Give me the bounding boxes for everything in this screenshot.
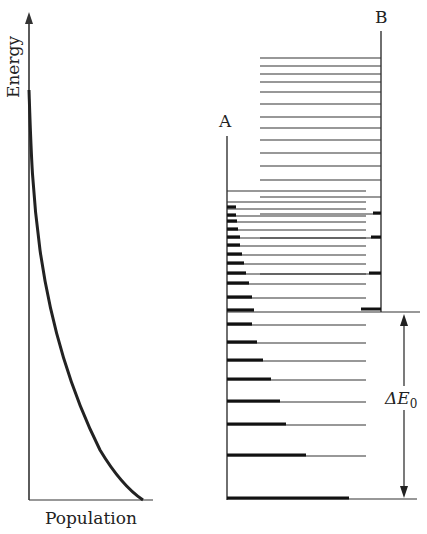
arrow-down-icon xyxy=(400,486,408,498)
a-energy-levels xyxy=(227,191,420,499)
label-b: B xyxy=(375,7,388,27)
a-population-bars xyxy=(227,207,349,498)
diagram-canvas: Energy Population A B xyxy=(0,0,427,534)
population-axis-label: Population xyxy=(45,508,137,528)
label-a: A xyxy=(218,111,232,131)
level-diagram: A B xyxy=(218,7,424,500)
boltzmann-curve xyxy=(29,90,143,500)
energy-axis-label: Energy xyxy=(3,36,23,98)
energy-population-diagram: Energy Population A B xyxy=(0,0,427,534)
energy-axis-arrow-icon xyxy=(25,12,33,24)
b-population-bars xyxy=(361,213,381,309)
arrow-up-icon xyxy=(400,314,408,326)
b-energy-levels xyxy=(260,58,381,274)
population-plot: Energy Population xyxy=(3,12,153,528)
